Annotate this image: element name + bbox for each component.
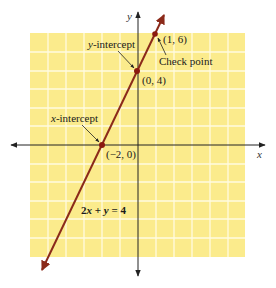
point-check bbox=[152, 31, 158, 37]
point-x-intercept bbox=[99, 142, 105, 148]
label-check-point-coords: (1, 6) bbox=[163, 33, 187, 46]
y-axis-label: y bbox=[126, 10, 132, 22]
x-axis-label: x bbox=[256, 148, 262, 160]
annotation-x-intercept: x-intercept bbox=[50, 112, 98, 124]
annotation-check-point: Check point bbox=[159, 55, 212, 67]
equation-label: 2x + y = 4 bbox=[81, 204, 126, 216]
label-y-intercept-point: (0, 4) bbox=[142, 74, 166, 87]
annotation-y-intercept: y-intercept bbox=[87, 38, 135, 50]
graph-canvas: x y (−2, 0) (0, 4) (1, 6) y-intercept x-… bbox=[0, 0, 276, 288]
point-y-intercept bbox=[134, 68, 140, 74]
label-x-intercept-point: (−2, 0) bbox=[106, 148, 136, 161]
